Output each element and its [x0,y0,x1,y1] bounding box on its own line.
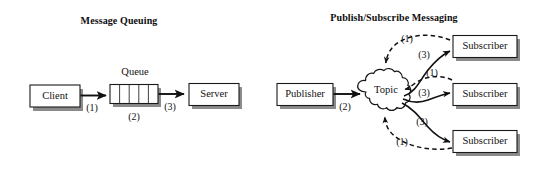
edge-subscriber-middle-to-topic: (1) [405,67,452,89]
node-queue[interactable] [110,85,161,108]
subscriber-top-to-topic-step-label: (1) [401,33,413,45]
edge-topic-to-subscriber-bottom: (3) [402,103,450,142]
panel-title-publish-subscribe: Publish/Subscribe Messaging [330,12,457,23]
publisher-to-topic-step-label: (2) [339,101,351,113]
edge-client-to-queue: (1) [81,96,107,115]
figure-canvas: Message Queuing Publish/Subscribe Messag… [0,0,537,170]
node-server[interactable]: Server [189,84,242,110]
topic-to-subscriber-top-step-label: (3) [418,49,430,61]
node-publisher[interactable]: Publisher [277,84,336,110]
panel-title-message-queuing: Message Queuing [81,15,158,26]
queue-hold-step-label: (2) [128,111,140,123]
subscriber-bottom-to-topic-step-label: (1) [396,136,408,148]
subscriber-top-label: Subscriber [463,40,508,51]
queue-box [110,85,158,104]
server-label: Server [200,88,228,99]
client-label: Client [42,90,68,101]
topic-to-subscriber-middle-step-label: (3) [418,87,430,99]
topic-label: Topic [374,84,398,95]
edge-publisher-to-topic: (2) [334,94,361,113]
node-subscriber-middle[interactable]: Subscriber [453,84,520,110]
panel-publish-subscribe: Publisher (2) Topic Subscriber (1) [277,33,520,156]
queue-title-label: Queue [121,66,149,77]
subscriber-middle-label: Subscriber [463,88,508,99]
subscriber-bottom-label: Subscriber [463,135,508,146]
topic-to-subscriber-bottom-step-label: (3) [416,116,428,128]
panel-message-queuing: Client (1) Queue (2) [30,66,242,123]
node-subscriber-bottom[interactable]: Subscriber [453,131,520,157]
edge-queue-to-server: (3) [159,94,185,113]
publisher-label: Publisher [285,88,325,99]
node-subscriber-top[interactable]: Subscriber [453,36,520,62]
messaging-models-diagram: Message Queuing Publish/Subscribe Messag… [0,0,537,170]
subscriber-middle-to-topic-step-label: (1) [426,67,438,79]
node-client[interactable]: Client [30,85,83,111]
client-to-queue-step-label: (1) [86,102,98,114]
queue-to-server-step-label: (3) [164,101,176,113]
